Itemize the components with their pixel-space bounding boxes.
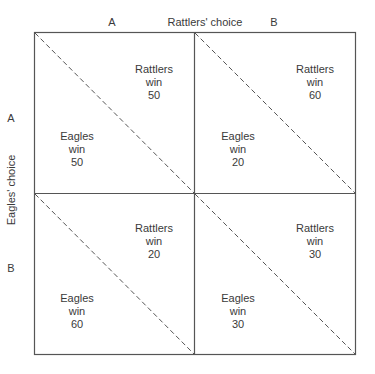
payoff-value: 30 — [285, 248, 345, 261]
payoff-value: 20 — [208, 156, 268, 169]
win-label: win — [208, 305, 268, 318]
eagles-label: Eagles — [208, 130, 268, 143]
rattlers-label: Rattlers — [124, 222, 184, 235]
eagles-label: Eagles — [208, 292, 268, 305]
cell-bb-eagles-payoff: Eagles win 30 — [208, 292, 268, 331]
win-label: win — [285, 235, 345, 248]
rattlers-label: Rattlers — [285, 222, 345, 235]
cell-ba-rattlers-payoff: Rattlers win 20 — [124, 222, 184, 261]
cell-bb-rattlers-payoff: Rattlers win 30 — [285, 222, 345, 261]
column-label-a: A — [106, 16, 118, 28]
row-label-a: A — [5, 112, 17, 124]
payoff-value: 50 — [124, 89, 184, 102]
payoff-value: 20 — [124, 248, 184, 261]
rattlers-label: Rattlers — [124, 63, 184, 76]
win-label: win — [124, 76, 184, 89]
eagles-label: Eagles — [47, 130, 107, 143]
column-label-b: B — [268, 16, 280, 28]
cell-ab-eagles-payoff: Eagles win 20 — [208, 130, 268, 169]
row-label-b: B — [5, 262, 17, 274]
rattlers-label: Rattlers — [285, 63, 345, 76]
row-axis-title: Eagles' choice — [5, 150, 17, 230]
cell-aa-rattlers-payoff: Rattlers win 50 — [124, 63, 184, 102]
payoff-value: 30 — [208, 318, 268, 331]
win-label: win — [47, 305, 107, 318]
payoff-value: 50 — [47, 156, 107, 169]
payoff-value: 60 — [285, 89, 345, 102]
cell-aa-eagles-payoff: Eagles win 50 — [47, 130, 107, 169]
cell-ab-rattlers-payoff: Rattlers win 60 — [285, 63, 345, 102]
win-label: win — [208, 143, 268, 156]
win-label: win — [47, 143, 107, 156]
cell-ba-eagles-payoff: Eagles win 60 — [47, 292, 107, 331]
column-axis-title: Rattlers' choice — [150, 16, 260, 28]
win-label: win — [285, 76, 345, 89]
win-label: win — [124, 235, 184, 248]
payoff-value: 60 — [47, 318, 107, 331]
payoff-matrix-diagram: A Rattlers' choice B A B Eagles' choice … — [0, 0, 375, 374]
eagles-label: Eagles — [47, 292, 107, 305]
